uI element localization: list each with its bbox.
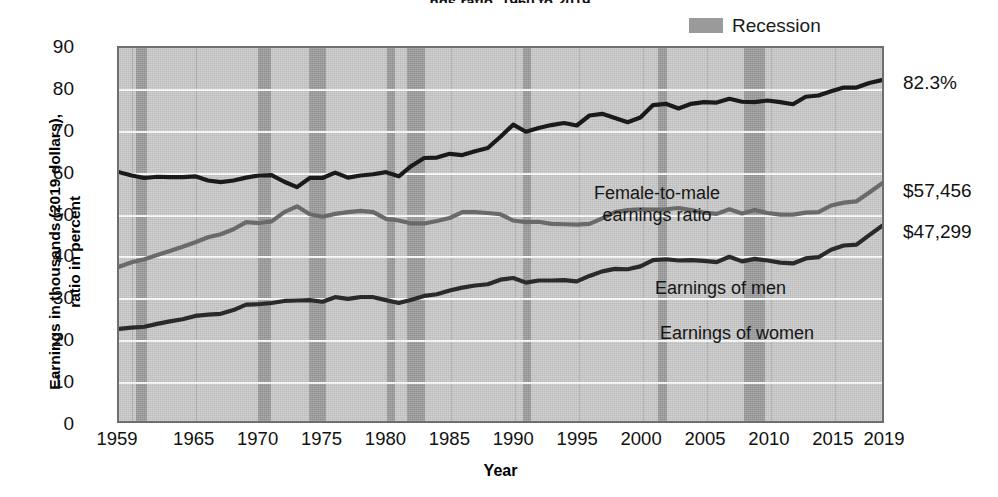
end-label-ratio: 82.3% xyxy=(903,73,957,92)
annotation-women: Earnings of women xyxy=(660,323,814,345)
x-axis-tick-label: 2015 xyxy=(812,430,853,449)
x-axis-title: Year xyxy=(117,462,884,480)
x-axis-tick-label: 1990 xyxy=(493,430,534,449)
annotation-men: Earnings of men xyxy=(655,278,786,300)
end-label-women: $47,299 xyxy=(903,222,972,241)
recession-legend-label: Recession xyxy=(732,16,821,35)
y-axis-tick-label: 60 xyxy=(34,163,74,182)
x-axis-tick-label: 1985 xyxy=(429,430,470,449)
x-axis-tick-label: 1970 xyxy=(237,430,278,449)
x-axis-tick-label: 2019 xyxy=(863,430,904,449)
x-axis-tick-label: 2010 xyxy=(748,430,789,449)
y-axis-tick-label: 10 xyxy=(34,372,74,391)
x-axis-tick-label: 1959 xyxy=(96,430,137,449)
x-axis-tick-label: 2005 xyxy=(684,430,725,449)
x-axis-tick-label: 1980 xyxy=(365,430,406,449)
plot-area: Female-to-male earnings ratio Earnings o… xyxy=(117,46,884,423)
y-axis-tick-label: 0 xyxy=(34,414,74,433)
y-axis-tick-label: 30 xyxy=(34,288,74,307)
y-axis-tick-label: 50 xyxy=(34,205,74,224)
series-line xyxy=(119,183,882,266)
series-line xyxy=(119,80,882,187)
y-axis-tick-label: 70 xyxy=(34,121,74,140)
x-axis-tick-label: 1965 xyxy=(173,430,214,449)
plot-frame xyxy=(117,46,884,423)
y-axis-tick-label: 20 xyxy=(34,330,74,349)
x-axis-tick-label: 1995 xyxy=(557,430,598,449)
series-lines xyxy=(119,48,882,423)
annotation-ratio: Female-to-male earnings ratio xyxy=(594,183,720,226)
x-axis-tick-label: 1975 xyxy=(301,430,342,449)
y-axis-tick-label: 80 xyxy=(34,79,74,98)
x-axis-tick-label: 2000 xyxy=(621,430,662,449)
y-axis-tick-label: 40 xyxy=(34,246,74,265)
chart-title-fragment: ngs ratio, 1960 to 2019 xyxy=(300,0,720,3)
end-label-men: $57,456 xyxy=(903,181,972,200)
y-axis-tick-label: 90 xyxy=(34,37,74,56)
chart-page: ngs ratio, 1960 to 2019 Recession Earnin… xyxy=(0,0,998,497)
recession-legend-swatch xyxy=(689,18,723,33)
chart-legend: Recession xyxy=(689,16,821,35)
